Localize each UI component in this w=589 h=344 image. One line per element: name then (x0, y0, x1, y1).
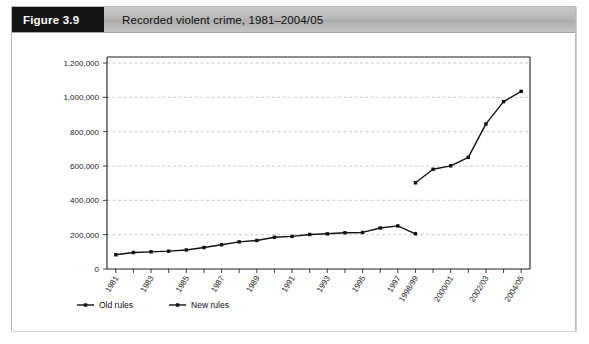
x-tick-label: 2000/01 (432, 274, 455, 304)
data-point-marker (149, 250, 152, 253)
x-tick-labels-group: 1981198319851987198919911993199519971998… (103, 274, 526, 304)
data-point-marker (255, 239, 258, 242)
legend-marker (84, 303, 87, 306)
data-point-marker (484, 122, 487, 125)
chart-plot-area: 0200,000400,000600,000800,0001,000,0001,… (12, 33, 575, 331)
y-tick-label: 600,000 (70, 162, 99, 171)
y-tick-label: 1,000,000 (63, 93, 99, 102)
data-point-marker (431, 168, 434, 171)
y-tick-label: 200,000 (70, 231, 99, 240)
legend-label: New rules (191, 300, 229, 310)
data-point-marker (290, 235, 293, 238)
series-line-old-rules (116, 226, 416, 255)
y-tick-label: 0 (95, 265, 100, 274)
x-tick-label: 1981 (103, 274, 120, 294)
series-line-new-rules (415, 91, 521, 183)
x-tick-label: 1995 (350, 274, 367, 294)
x-tick-label: 1989 (244, 274, 261, 294)
data-point-marker (396, 224, 399, 227)
x-tick-label: 1991 (280, 274, 297, 294)
gridlines-group (107, 63, 530, 235)
data-point-marker (414, 232, 417, 235)
data-point-marker (343, 231, 346, 234)
y-tick-label: 800,000 (70, 128, 99, 137)
data-point-marker (220, 243, 223, 246)
data-point-marker (202, 246, 205, 249)
figure-number-label: Figure 3.9 (12, 7, 104, 32)
figure-header: Figure 3.9 Recorded violent crime, 1981–… (12, 7, 575, 33)
x-tick-label: 1983 (139, 274, 156, 294)
data-point-marker (467, 156, 470, 159)
data-point-marker (273, 236, 276, 239)
data-point-marker (378, 226, 381, 229)
data-point-marker (114, 253, 117, 256)
figure-caption: Recorded violent crime, 1981–2004/05 (104, 7, 575, 32)
y-tick-labels-group: 0200,000400,000600,000800,0001,000,0001,… (63, 59, 107, 274)
legend-label: Old rules (99, 300, 133, 310)
chart-legend: Old rulesNew rules (77, 300, 229, 310)
x-tick-label: 1993 (315, 274, 332, 294)
x-tick-marks-group (116, 269, 521, 273)
data-point-marker (308, 233, 311, 236)
data-point-marker (132, 251, 135, 254)
x-tick-label: 1987 (209, 274, 226, 294)
data-point-marker (326, 232, 329, 235)
data-point-marker (502, 100, 505, 103)
legend-marker (176, 303, 179, 306)
data-series-group (114, 90, 523, 257)
data-point-marker (167, 249, 170, 252)
data-point-marker (361, 231, 364, 234)
x-tick-label: 1997 (385, 274, 402, 294)
y-tick-label: 1,200,000 (63, 59, 99, 68)
x-tick-label: 1985 (174, 274, 191, 294)
data-point-marker (449, 164, 452, 167)
y-tick-label: 400,000 (70, 196, 99, 205)
data-point-marker (185, 248, 188, 251)
x-tick-label: 2004/05 (503, 274, 526, 304)
line-chart: 0200,000400,000600,000800,0001,000,0001,… (12, 33, 575, 330)
data-point-marker (237, 240, 240, 243)
data-point-marker (414, 181, 417, 184)
figure-card: Figure 3.9 Recorded violent crime, 1981–… (11, 6, 576, 331)
data-point-marker (519, 90, 522, 93)
axes-group (107, 57, 530, 269)
x-tick-label: 2002/03 (468, 274, 491, 304)
